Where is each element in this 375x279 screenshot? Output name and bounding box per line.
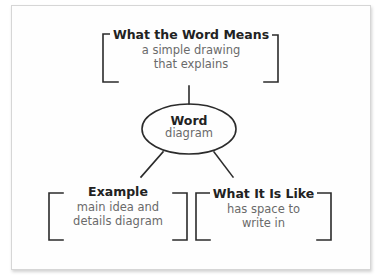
what-it-is-like-title: What It Is Like: [210, 187, 318, 200]
top-box-line1: a simple drawing: [103, 44, 279, 58]
diagram-canvas: What the Word Means a simple drawing tha…: [0, 0, 375, 279]
example-box-title: Example: [85, 185, 151, 198]
top-box-title: What the Word Means: [110, 28, 272, 41]
example-box-line1: main idea and: [49, 201, 187, 215]
center-node-subtitle: diagram: [142, 127, 236, 141]
center-node: Word diagram: [142, 114, 236, 141]
example-box-line2: details diagram: [49, 215, 187, 229]
connector-left: [141, 152, 163, 177]
what-it-is-like-line2: write in: [196, 217, 331, 231]
example-box: Example main idea and details diagram: [49, 183, 187, 228]
what-it-is-like-line1: has space to: [196, 203, 331, 217]
what-it-is-like-box: What It Is Like has space to write in: [196, 185, 331, 230]
top-box: What the Word Means a simple drawing tha…: [103, 26, 279, 71]
top-box-line2: that explains: [103, 58, 279, 72]
connector-right: [214, 152, 233, 177]
